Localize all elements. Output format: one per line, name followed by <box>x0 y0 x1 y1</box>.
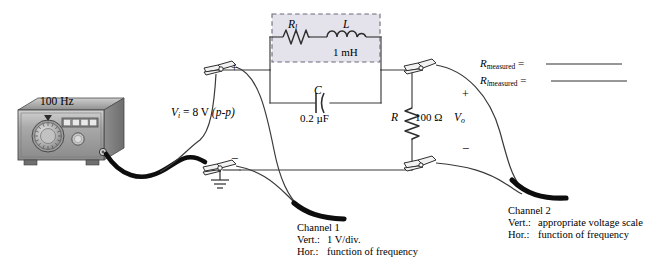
output-terminal-minus: − <box>462 142 469 157</box>
channel2-settings-block: Channel 2 Vert.:appropriate voltage scal… <box>508 205 643 241</box>
clip-output-negative <box>404 156 436 171</box>
channel2-hor-value: function of frequency <box>538 229 629 240</box>
inductor-value-label: 1 mH <box>333 46 358 59</box>
channel1-coax-cable <box>294 203 344 219</box>
input-voltage-symbol: V <box>171 106 178 118</box>
load-resistor-value-label: 100 Ω <box>415 111 442 124</box>
channel2-name: Channel 2 <box>508 205 643 217</box>
rl-measured-annotation: Rlmeasured = <box>480 74 526 88</box>
channel2-lead-negative <box>436 163 522 194</box>
output-terminal-plus: + <box>462 88 469 102</box>
rl-measured-equals: = <box>520 74 526 86</box>
clip-output-positive <box>404 59 436 74</box>
r-measured-annotation: Rmeasured = <box>480 57 524 71</box>
capacitor-value-label: 0.2 µF <box>300 112 329 125</box>
channel2-hor-key: Hor.: <box>508 229 538 241</box>
r-measured-symbol: R <box>480 57 487 69</box>
r-measured-word: measured <box>487 62 516 71</box>
rl-measured-symbol: R <box>480 74 487 86</box>
power-button[interactable] <box>72 133 84 145</box>
input-terminal-minus: − <box>231 152 238 167</box>
coil-resistance-symbol-text: R <box>288 18 295 30</box>
frequency-dial-knob[interactable] <box>32 120 64 152</box>
channel1-hor-row: Hor.:function of frequency <box>297 246 418 258</box>
input-voltage-qualifier: (p-p) <box>212 106 235 118</box>
generator-output-cable <box>106 154 205 177</box>
rl-measured-word: measured <box>489 79 518 88</box>
channel1-lead-positive <box>236 67 300 208</box>
input-voltage-value: 8 V <box>192 106 209 118</box>
output-voltage-label: Vo <box>454 111 465 125</box>
capacitor-label: C <box>314 84 322 97</box>
r-measured-equals: = <box>518 57 524 69</box>
channel1-vert-key: Vert.: <box>297 234 327 246</box>
channel1-name: Channel 1 <box>297 222 418 234</box>
load-resistor-label: R <box>391 111 398 124</box>
channel1-vert-value: 1 V/div. <box>327 234 361 245</box>
channel2-vert-key: Vert.: <box>508 217 538 229</box>
channel1-hor-value: function of frequency <box>327 246 418 257</box>
channel2-hor-row: Hor.:function of frequency <box>508 229 643 241</box>
output-voltage-symbol: V <box>454 111 461 123</box>
input-voltage-label: Vi = 8 V (p-p) <box>171 106 235 120</box>
channel1-settings-block: Channel 1 Vert.:1 V/div. Hor.:function o… <box>297 222 418 258</box>
input-voltage-subscript: i <box>178 111 180 120</box>
inductor-label: L <box>343 18 349 31</box>
channel2-vert-row: Vert.:appropriate voltage scale <box>508 217 643 229</box>
channel1-hor-key: Hor.: <box>297 246 327 258</box>
input-voltage-equals: = <box>183 106 190 118</box>
coil-resistance-label: Rl <box>288 18 297 32</box>
generator-frequency-label: 100 Hz <box>40 95 74 108</box>
output-voltage-subscript: o <box>461 116 465 125</box>
coil-resistance-subscript: l <box>295 23 297 32</box>
channel2-coax-cable <box>512 180 566 198</box>
input-terminal-plus: + <box>231 62 238 76</box>
channel2-vert-value: appropriate voltage scale <box>538 217 643 228</box>
button-bank[interactable] <box>62 118 98 127</box>
channel1-vert-row: Vert.:1 V/div. <box>297 234 418 246</box>
circuit-diagram-canvas: 100 Hz Vi = 8 V (p-p) Rl L 1 mH C 0.2 µF… <box>0 0 660 275</box>
